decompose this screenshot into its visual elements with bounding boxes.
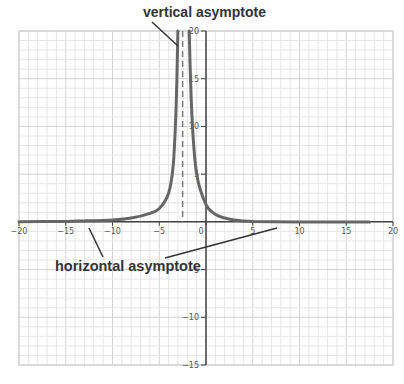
- x-tick-label: 0: [198, 227, 203, 236]
- x-tick-label: −15: [57, 227, 74, 236]
- x-tick-label: 15: [341, 227, 351, 236]
- function-plot: −20−15−10−505101520−15−10−55101520: [0, 0, 404, 384]
- x-tick-label: −20: [11, 227, 28, 236]
- horizontal-asymptote-pointer-left: [89, 228, 103, 257]
- horizontal-asymptote-pointer-right: [165, 228, 277, 258]
- x-tick-label: −5: [153, 227, 165, 236]
- x-tick-label: −10: [104, 227, 121, 236]
- y-tick-label: −15: [182, 361, 199, 370]
- vertical-asymptote-label: vertical asymptote: [143, 5, 266, 19]
- x-tick-label: 20: [388, 227, 398, 236]
- x-tick-label: 10: [294, 227, 304, 236]
- horizontal-asymptote-label: horizontal asymptote: [55, 259, 201, 274]
- vertical-asymptote-pointer: [152, 22, 178, 46]
- y-tick-label: −10: [182, 313, 199, 322]
